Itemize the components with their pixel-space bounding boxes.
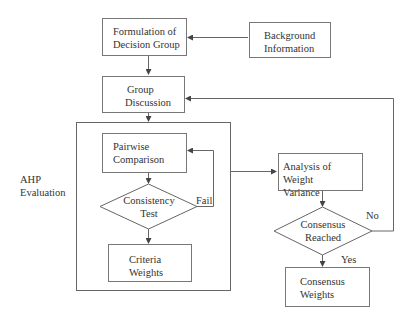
- node-text: Variance: [283, 186, 362, 199]
- node-text: Background: [264, 29, 330, 42]
- node-text: Pairwise: [113, 140, 186, 153]
- node-text: Weights: [300, 288, 369, 301]
- node-text: Consensus: [300, 275, 369, 288]
- node-text: Formulation of: [113, 25, 186, 38]
- group-label-text: Evaluation: [20, 186, 66, 199]
- consistency-test-diamond: Consistency Test: [110, 194, 188, 220]
- node-text: Weights: [129, 266, 191, 279]
- pairwise-comparison-box: Pairwise Comparison: [102, 133, 187, 173]
- node-text: Consensus: [284, 218, 362, 231]
- no-label: No: [366, 209, 379, 222]
- node-text: Comparison: [113, 153, 186, 166]
- consensus-weights-box: Consensus Weights: [285, 267, 370, 307]
- background-information-box: Background Information: [249, 22, 331, 58]
- ahp-evaluation-label: AHP Evaluation: [20, 173, 66, 199]
- group-discussion-box: Group Discussion: [102, 76, 185, 113]
- node-text: Criteria: [129, 253, 191, 266]
- node-text: Consistency: [110, 194, 188, 207]
- node-text: Decision Group: [113, 38, 186, 51]
- node-text: Test: [110, 207, 188, 220]
- consensus-reached-diamond: Consensus Reached: [284, 218, 362, 244]
- group-label-text: AHP: [20, 173, 66, 186]
- analysis-of-weight-variance-box: Analysis of Weight Variance: [278, 153, 363, 191]
- fail-label: Fail: [196, 194, 212, 207]
- node-text: Information: [264, 42, 330, 55]
- node-text: Reached: [284, 231, 362, 244]
- yes-label: Yes: [341, 253, 356, 266]
- node-text: Analysis of Weight: [283, 160, 362, 186]
- formulation-of-decision-group-box: Formulation of Decision Group: [102, 18, 187, 56]
- node-text: Group: [127, 83, 184, 96]
- criteria-weights-box: Criteria Weights: [108, 244, 192, 282]
- node-text: Discussion: [125, 96, 184, 109]
